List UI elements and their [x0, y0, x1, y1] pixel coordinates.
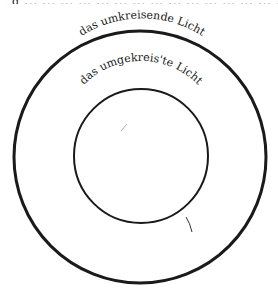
outer-circle-label: das umkreisende Licht [76, 8, 208, 39]
outer-circle [14, 31, 266, 283]
inner-circle-label: das umgekreis'te Licht [77, 51, 206, 88]
inner-circle [74, 89, 208, 223]
diagram: das umkreisende Licht das umgekreis'te L… [0, 0, 278, 300]
stray-mark [121, 124, 127, 131]
stray-mark [186, 217, 192, 232]
